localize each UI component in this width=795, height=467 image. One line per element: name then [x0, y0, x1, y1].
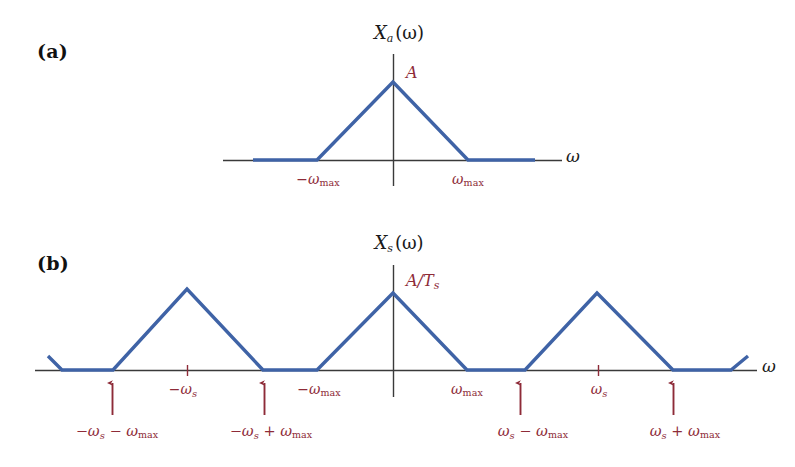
plot-vector-layer: [0, 0, 795, 467]
panel-b-curve: [48, 289, 748, 370]
panel-b-sampled-spectrum-replicas: [48, 289, 748, 370]
panel-a-axes: [223, 54, 562, 186]
figure-canvas: (a) Xa(ω) A ω −ωmax ωmax (b) Xs(ω) A/Ts …: [0, 0, 795, 467]
panel-b-axes: [35, 265, 757, 397]
